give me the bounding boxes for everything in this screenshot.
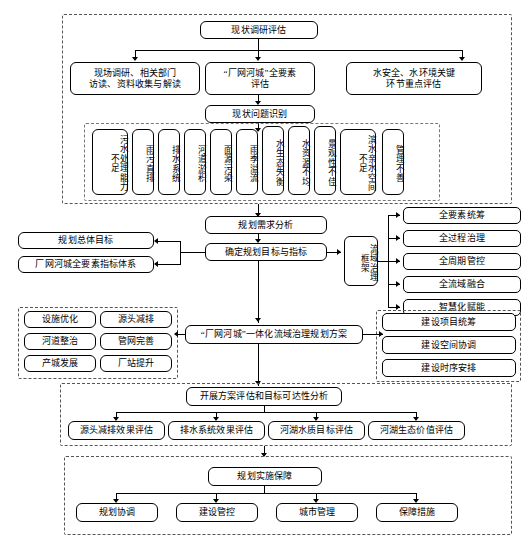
node-set-targets[interactable]: 确定规划目标与指标 (205, 243, 327, 261)
problem-item[interactable]: 水资源不均 (288, 126, 310, 195)
construction-item[interactable]: 建设时序安排 (382, 359, 516, 377)
flowchart-canvas: 现状调研评估 现场调研、相关部门 访读、资料收集与解读 “厂网河城”全要素 评估… (0, 0, 530, 542)
node-status-survey-head[interactable]: 现状调研评估 (200, 21, 318, 39)
assessment-item[interactable]: 排水系统效果评估 (168, 421, 265, 440)
measure-item[interactable]: 源头减排 (100, 311, 172, 328)
node-field-survey[interactable]: 现场调研、相关部门 访读、资料收集与解读 (70, 62, 200, 95)
problem-label: 水资源不均 (300, 139, 309, 186)
node-integrated-scheme[interactable]: “厂网河城”一体化流域治理规划方案 (185, 325, 363, 344)
implementation-item[interactable]: 建设管控 (176, 503, 258, 522)
node-problem-identification[interactable]: 现状问题识别 (205, 105, 315, 123)
problem-item[interactable]: 景观性不佳 (314, 126, 336, 195)
measure-item[interactable]: 管网完善 (100, 333, 172, 350)
framework-item[interactable]: 全流域融合 (403, 276, 521, 293)
measure-item[interactable]: 厂站提升 (100, 355, 172, 372)
measure-item[interactable]: 河道整治 (24, 333, 96, 350)
node-demand-analysis[interactable]: 规划需求分析 (205, 216, 327, 234)
assessment-item[interactable]: 源头减排效果评估 (68, 421, 165, 440)
problem-label: 雨季溢流 (248, 145, 257, 183)
node-indicator-system[interactable]: 厂网河城全要素指标体系 (18, 256, 154, 273)
node-overall-target[interactable]: 规划总体目标 (18, 232, 154, 249)
problem-item[interactable]: 污水处理能力不足 (92, 129, 128, 195)
node-assessment-head[interactable]: 开展方案评估和目标可达性分析 (186, 387, 342, 406)
node-water-safety-assessment[interactable]: 水安全、水环境关键 环节重点评估 (346, 62, 482, 95)
node-full-element-assessment[interactable]: “厂网河城”全要素 评估 (205, 62, 315, 95)
problem-item[interactable]: 雨季溢流 (236, 129, 258, 195)
construction-item[interactable]: 建设项目统筹 (382, 313, 516, 331)
problem-label: 面源污染 (222, 145, 231, 183)
problem-label: 河道淤积 (196, 145, 205, 183)
assessment-item[interactable]: 河湖生态价值评估 (368, 421, 465, 440)
problem-label: 管理不善 (394, 145, 403, 183)
problem-item[interactable]: 水生态失衡 (262, 126, 284, 195)
measure-item[interactable]: 设施优化 (24, 311, 96, 328)
implementation-item[interactable]: 规划协调 (76, 503, 158, 522)
problem-label: 污水处理能力不足 (109, 133, 127, 194)
implementation-item[interactable]: 城市管理 (276, 503, 358, 522)
construction-item[interactable]: 建设空间协调 (382, 336, 516, 354)
problem-item[interactable]: 排水系统 (158, 129, 180, 195)
problem-label: 排水系统 (170, 145, 179, 183)
framework-item[interactable]: 全周期管控 (403, 253, 521, 270)
problem-item[interactable]: 面源污染 (210, 129, 232, 195)
problem-item[interactable]: 河道淤积 (184, 129, 206, 195)
problem-label: 雨污直排 (144, 145, 153, 183)
problem-label: 水生态失衡 (274, 139, 283, 186)
problem-item[interactable]: 管理不善 (382, 129, 404, 195)
problem-label: 滨水亲水空间不足 (357, 133, 375, 194)
problem-item[interactable]: 雨污直排 (132, 129, 154, 195)
framework-label: 流域治理框架 (359, 241, 377, 285)
assessment-item[interactable]: 河湖水质目标评估 (268, 421, 365, 440)
node-implementation-head[interactable]: 规划实施保障 (208, 467, 322, 486)
node-watershed-framework[interactable]: 流域治理框架 (344, 236, 378, 286)
framework-item[interactable]: 全要素统筹 (403, 207, 521, 224)
problem-item[interactable]: 滨水亲水空间不足 (340, 129, 376, 195)
framework-item[interactable]: 全过程治理 (403, 230, 521, 247)
implementation-item[interactable]: 保障措施 (376, 503, 458, 522)
measure-item[interactable]: 产城发展 (24, 355, 96, 372)
problem-label: 景观性不佳 (326, 139, 335, 186)
